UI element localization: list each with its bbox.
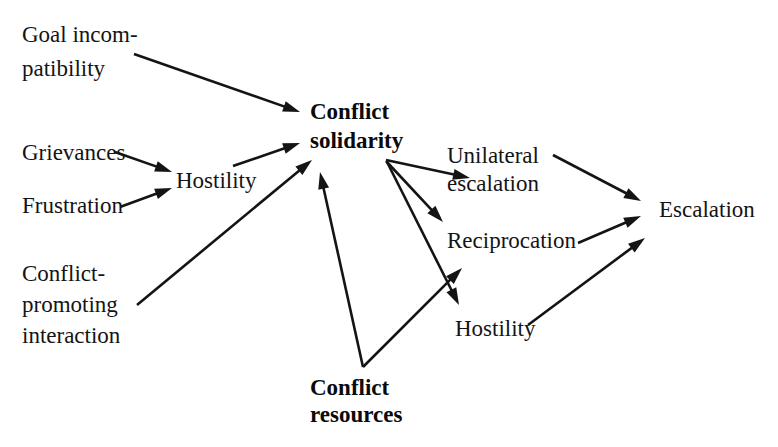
edge-reciprocation-to-escalation	[578, 216, 641, 243]
diagram-canvas: Goal incom-patibilityGrievancesFrustrati…	[0, 0, 778, 447]
edge-conflict-resources-to-conflict-solidarity	[318, 172, 363, 367]
edge-line	[553, 155, 629, 195]
edge-goal-incompatibility-to-conflict-solidarity	[134, 54, 300, 112]
edge-unilateral-escalation-to-escalation	[553, 155, 641, 201]
edge-line	[323, 186, 363, 367]
node-label-line: Conflict	[310, 99, 390, 124]
edge-hostility-to-conflict-solidarity	[233, 143, 300, 166]
arrowhead-icon	[628, 238, 645, 253]
node-unilateral-escalation: Unilateralescalation	[447, 143, 539, 196]
node-conflict-solidarity: Conflictsolidarity	[310, 99, 404, 153]
node-escalation: Escalation	[659, 197, 755, 222]
node-label-line: patibility	[22, 56, 106, 81]
edge-line	[233, 148, 287, 166]
arrowhead-icon	[446, 287, 459, 305]
node-reciprocation: Reciprocation	[447, 228, 577, 253]
arrowhead-icon	[154, 161, 172, 172]
node-label-line: Conflict-	[22, 261, 105, 286]
edge-line	[120, 193, 159, 207]
node-label-line: Frustration	[22, 193, 123, 218]
edge-line	[578, 222, 628, 243]
node-hostility-left: Hostility	[176, 168, 257, 193]
node-conflict-resources: Conflictresources	[310, 375, 402, 427]
node-label-line: interaction	[22, 323, 121, 348]
edge-frustration-to-hostility	[120, 188, 172, 207]
arrowhead-icon	[623, 216, 641, 228]
node-label-line: Goal incom-	[22, 22, 138, 47]
edge-line	[528, 246, 634, 325]
arrowhead-icon	[623, 188, 641, 201]
node-label-line: Hostility	[455, 316, 536, 341]
node-conflict-promoting-interaction: Conflict-promotinginteraction	[22, 261, 121, 348]
edge-line	[363, 278, 452, 367]
node-label-line: Conflict	[310, 375, 390, 400]
node-frustration: Frustration	[22, 193, 123, 218]
node-label-line: Unilateral	[447, 143, 539, 168]
arrowhead-icon	[318, 172, 329, 190]
arrowhead-icon	[282, 143, 300, 154]
node-label-line: solidarity	[310, 128, 404, 153]
edge-conflict-resources-to-reciprocation	[363, 268, 462, 367]
node-label-line: Grievances	[22, 140, 125, 165]
node-label-line: Reciprocation	[447, 228, 577, 253]
edge-line	[134, 54, 287, 107]
node-label-line: promoting	[22, 292, 118, 317]
node-label-line: Hostility	[176, 168, 257, 193]
node-goal-incompatibility: Goal incom-patibility	[22, 22, 138, 81]
node-hostility-right: Hostility	[455, 316, 536, 341]
node-label-line: resources	[310, 402, 402, 427]
arrowhead-icon	[154, 188, 172, 199]
arrowhead-icon	[282, 101, 300, 112]
conflict-escalation-diagram: Goal incom-patibilityGrievancesFrustrati…	[0, 0, 778, 447]
node-label-line: Escalation	[659, 197, 755, 222]
node-grievances: Grievances	[22, 140, 125, 165]
node-label-line: escalation	[447, 171, 539, 196]
edge-line	[387, 162, 453, 292]
nodes-layer: Goal incom-patibilityGrievancesFrustrati…	[22, 22, 755, 427]
